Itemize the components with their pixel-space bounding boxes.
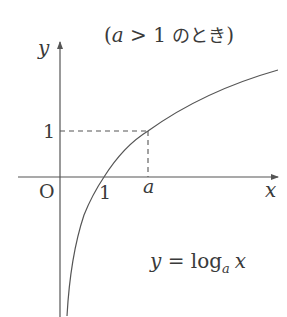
equation-label: y = logax: [149, 249, 246, 276]
x-axis-label: x: [265, 178, 276, 202]
condition-title: (a > 1 のとき): [104, 23, 234, 47]
y-tick-1: 1: [43, 120, 55, 142]
y-axis-label: y: [37, 36, 50, 60]
x-tick-a: a: [143, 175, 154, 197]
x-tick-1: 1: [99, 181, 111, 203]
log-graph: (a > 1 のとき) y x O 1 a 1 y = logax: [0, 0, 287, 317]
origin-label: O: [39, 180, 55, 202]
